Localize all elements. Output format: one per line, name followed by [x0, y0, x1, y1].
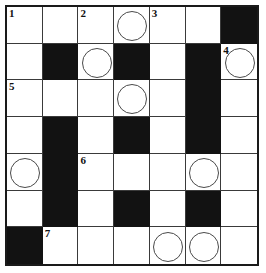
circle-marker-icon — [10, 158, 40, 188]
clue-number: 7 — [45, 227, 51, 239]
crossword-grid: 1234567 — [7, 7, 257, 264]
crossword-puzzle: 1234567 — [0, 0, 266, 273]
grid-open-cell[interactable] — [114, 7, 150, 44]
grid-open-cell[interactable] — [150, 154, 186, 191]
grid-open-cell[interactable] — [7, 154, 43, 191]
circle-marker-icon — [189, 158, 219, 188]
grid-open-cell[interactable]: 7 — [43, 227, 79, 264]
grid-open-cell[interactable] — [186, 7, 222, 44]
grid-open-cell[interactable] — [114, 154, 150, 191]
grid-block-cell — [43, 117, 79, 154]
grid-open-cell[interactable] — [78, 80, 114, 117]
grid-block-cell — [7, 227, 43, 264]
grid-open-cell[interactable] — [114, 80, 150, 117]
grid-open-cell[interactable] — [150, 117, 186, 154]
grid-open-cell[interactable]: 3 — [150, 7, 186, 44]
circle-marker-icon — [82, 48, 112, 78]
grid-open-cell[interactable]: 6 — [78, 154, 114, 191]
grid-open-cell[interactable] — [43, 80, 79, 117]
grid-block-cell — [114, 117, 150, 154]
clue-number: 1 — [9, 7, 15, 19]
grid-block-cell — [186, 117, 222, 154]
grid-block-cell — [43, 191, 79, 228]
grid-open-cell[interactable]: 4 — [221, 44, 257, 81]
grid-open-cell[interactable] — [43, 7, 79, 44]
grid-open-cell[interactable] — [221, 227, 257, 264]
circle-marker-icon — [153, 232, 183, 262]
grid-open-cell[interactable] — [7, 117, 43, 154]
grid-open-cell[interactable] — [150, 191, 186, 228]
grid-open-cell[interactable] — [221, 191, 257, 228]
grid-open-cell[interactable] — [7, 44, 43, 81]
grid-block-cell — [186, 80, 222, 117]
grid-block-cell — [221, 7, 257, 44]
grid-block-cell — [43, 44, 79, 81]
clue-number: 2 — [80, 7, 86, 19]
circle-marker-icon — [117, 84, 147, 114]
grid-open-cell[interactable]: 5 — [7, 80, 43, 117]
grid-open-cell[interactable] — [186, 227, 222, 264]
grid-open-cell[interactable] — [78, 44, 114, 81]
grid-open-cell[interactable] — [78, 117, 114, 154]
grid-open-cell[interactable] — [7, 191, 43, 228]
crossword-frame: 1234567 — [5, 5, 259, 266]
grid-block-cell — [114, 44, 150, 81]
clue-number: 4 — [223, 44, 229, 56]
grid-open-cell[interactable] — [114, 227, 150, 264]
grid-open-cell[interactable] — [221, 117, 257, 154]
grid-block-cell — [186, 191, 222, 228]
circle-marker-icon — [225, 48, 255, 78]
clue-number: 6 — [80, 154, 86, 166]
clue-number: 5 — [9, 80, 15, 92]
grid-open-cell[interactable] — [150, 80, 186, 117]
grid-open-cell[interactable] — [150, 227, 186, 264]
grid-block-cell — [114, 191, 150, 228]
circle-marker-icon — [117, 11, 147, 41]
circle-marker-icon — [189, 232, 219, 262]
clue-number: 3 — [152, 7, 158, 19]
grid-open-cell[interactable] — [150, 44, 186, 81]
grid-open-cell[interactable] — [78, 191, 114, 228]
grid-open-cell[interactable] — [78, 227, 114, 264]
grid-open-cell[interactable]: 2 — [78, 7, 114, 44]
grid-block-cell — [43, 154, 79, 191]
grid-open-cell[interactable]: 1 — [7, 7, 43, 44]
grid-block-cell — [186, 44, 222, 81]
grid-open-cell[interactable] — [221, 154, 257, 191]
grid-open-cell[interactable] — [186, 154, 222, 191]
grid-open-cell[interactable] — [221, 80, 257, 117]
